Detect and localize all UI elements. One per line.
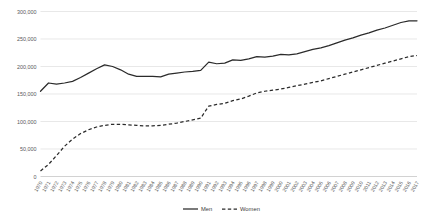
y-axis-tick-label: 300,000 — [17, 9, 37, 15]
y-axis-tick-label: 200,000 — [17, 64, 37, 70]
y-axis-tick-labels: 050,000100,000150,000200,000250,000300,0… — [17, 9, 37, 180]
series-line-women — [41, 56, 418, 172]
legend-label-women: Women — [240, 206, 260, 212]
legend-label-men: Men — [201, 206, 212, 212]
chart-legend: MenWomen — [183, 206, 260, 212]
chart-plot-area: 050,000100,000150,000200,000250,000300,0… — [0, 0, 425, 218]
line-chart: 050,000100,000150,000200,000250,000300,0… — [0, 0, 425, 218]
y-axis-tick-label: 150,000 — [17, 91, 37, 97]
y-axis-tick-label: 50,000 — [20, 146, 37, 152]
series-line-men — [41, 21, 418, 91]
y-axis-tick-label: 0 — [34, 174, 37, 180]
x-axis-tick-label: 2017 — [409, 180, 420, 193]
gridlines — [41, 12, 418, 177]
y-axis-tick-label: 250,000 — [17, 36, 37, 42]
x-axis-tick-labels: 1970197119721973197419751976197719781979… — [33, 180, 420, 193]
y-axis-tick-label: 100,000 — [17, 119, 37, 125]
